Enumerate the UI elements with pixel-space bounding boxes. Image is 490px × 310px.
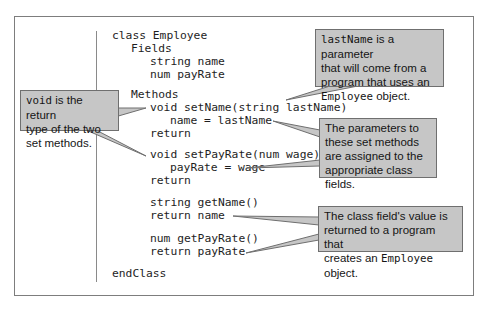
callout-code-term: Employee [381, 252, 433, 265]
callout-text: that will come from a [321, 62, 426, 74]
callout-text: are assigned to the [325, 150, 423, 162]
callout-text: object. [324, 267, 358, 279]
pointer-return-name [233, 216, 319, 225]
callout-text: The class field's value is [324, 210, 448, 222]
callout-field-value-returned: The class field's value is returned to a… [318, 206, 463, 252]
callout-void-return-type: void is the return type of the two set m… [20, 90, 119, 131]
callout-parameters-assigned: The parameters to these set methods are … [319, 118, 437, 178]
callout-code-term: lastName [321, 33, 373, 46]
pointer-param-name [273, 121, 320, 137]
callout-text: program that uses an [321, 76, 430, 88]
pointer-return-payrate [246, 234, 319, 253]
callout-text: object. [373, 90, 410, 102]
callout-text: The parameters to [325, 122, 419, 134]
callout-lastname-parameter: lastName is a parameter that will come f… [315, 29, 444, 87]
pointer-param-payrate [247, 160, 320, 168]
callout-text: returned to a program that [324, 224, 435, 250]
callout-text: creates an [324, 252, 381, 264]
callout-code-term: Employee [321, 90, 373, 103]
callout-text: set methods. [26, 137, 92, 149]
callout-text: type of the two [26, 123, 101, 135]
callout-text: these set methods [325, 136, 419, 148]
callout-code-term: void [26, 94, 52, 107]
